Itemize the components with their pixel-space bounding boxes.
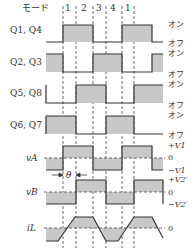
il-zero-label: 0 <box>168 224 173 233</box>
q6-off-label: オフ <box>168 131 184 140</box>
signal-label-q1-q4: Q1, Q4 <box>10 25 42 35</box>
q2-on-label: オン <box>168 49 184 58</box>
mode-1: 1 <box>65 3 71 13</box>
q1-on-label: オン <box>168 20 184 29</box>
waveform-q5-q8 <box>46 85 163 103</box>
signal-label-q6-q7: Q6, Q7 <box>10 120 42 130</box>
waveform-il <box>44 217 165 241</box>
q2-off-label: オフ <box>168 70 184 79</box>
va-neg-label: −V1 <box>168 166 186 175</box>
va-pos-label: +V1 <box>168 141 186 150</box>
vb-zero-label: 0 <box>168 188 173 197</box>
q5-off-label: オフ <box>168 101 184 110</box>
mode-4: 4 <box>110 3 116 13</box>
signal-label-il: iL <box>27 223 36 233</box>
waveform-vb <box>44 180 165 204</box>
vb-pos-label: +V2′ <box>168 175 187 184</box>
signal-label-va: vA <box>26 153 38 163</box>
mode-2: 2 <box>81 3 87 13</box>
signal-label-q5-q8: Q5, Q8 <box>10 88 42 98</box>
q6-on-label: オン <box>168 111 184 120</box>
waveform-q1-q4 <box>46 25 163 42</box>
mode-1b: 1 <box>125 3 131 13</box>
signal-label-vb: vB <box>26 187 38 197</box>
va-zero-label: 0 <box>168 153 173 162</box>
signal-label-q2-q3: Q2, Q3 <box>10 57 42 67</box>
vb-neg-label: −V2′ <box>168 200 187 209</box>
q5-on-label: オン <box>168 80 184 89</box>
waveform-va <box>44 146 165 170</box>
waveform-q2-q3 <box>46 54 163 72</box>
q1-off-label: オフ <box>168 39 184 48</box>
mode-label: モード <box>22 3 49 13</box>
phase-label: θ <box>66 170 71 180</box>
waveform-q6-q7 <box>46 116 163 134</box>
mode-3: 3 <box>96 3 102 13</box>
